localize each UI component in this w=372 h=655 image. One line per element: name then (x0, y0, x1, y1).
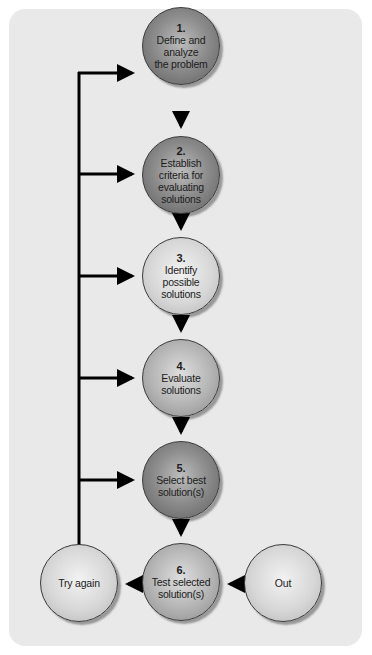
step-number: 5. (176, 462, 185, 474)
step-6-node: 6. Test selected solution(s) (142, 543, 220, 621)
step-label: Test selected solution(s) (152, 576, 211, 600)
step-number: 3. (176, 252, 185, 264)
step-label: Define and analyze the problem (154, 34, 207, 70)
step-label: Identify possible solutions (161, 264, 201, 300)
step-number: 4. (176, 360, 185, 372)
step-number: 6. (176, 564, 185, 576)
step-1-node: 1. Define and analyze the problem (142, 7, 220, 85)
step-3-node: 3. Identify possible solutions (142, 237, 220, 315)
step-label: Establish criteria for evaluating soluti… (158, 157, 204, 205)
out-node: Out (244, 544, 322, 622)
step-4-node: 4. Evaluate solutions (142, 339, 220, 417)
try-again-node: Try again (40, 544, 118, 622)
step-2-node: 2. Establish criteria for evaluating sol… (142, 136, 220, 214)
step-number: 1. (176, 22, 185, 34)
step-number: 2. (176, 145, 185, 157)
step-5-node: 5. Select best solution(s) (142, 441, 220, 519)
out-label: Out (275, 577, 291, 589)
step-label: Evaluate solutions (161, 372, 201, 396)
step-label: Select best solution(s) (156, 474, 206, 498)
try-again-label: Try again (58, 577, 100, 589)
